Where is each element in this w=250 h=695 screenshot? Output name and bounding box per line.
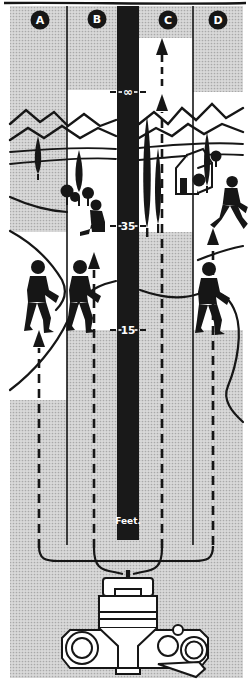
depth-of-field-diagram: ∞ 35 15 Feet. A B C D xyxy=(0,0,250,695)
gray-zone-c-near xyxy=(139,232,193,532)
lens-front xyxy=(103,578,153,596)
camera-base-tab xyxy=(116,668,140,674)
top-border-rule xyxy=(4,3,246,4)
tree-trunk xyxy=(37,174,39,180)
tree-trunk xyxy=(157,224,159,233)
tree-trunk xyxy=(215,160,217,167)
tree-trunk xyxy=(206,186,208,193)
scale-label-infinity: ∞ xyxy=(123,85,133,99)
tree-trunk xyxy=(87,198,89,206)
column-label-b: B xyxy=(93,13,101,26)
gray-zone-a-far xyxy=(10,6,67,232)
film-advance-dial-inner xyxy=(186,642,203,659)
scale-label-35: 35 xyxy=(121,220,136,232)
book-illustration-page: ∞ 35 15 Feet. A B C D xyxy=(0,0,250,695)
column-label-a: A xyxy=(36,14,45,27)
column-label-d: D xyxy=(213,14,222,27)
tree-trunk xyxy=(146,228,148,237)
gray-zone-b-near xyxy=(67,330,117,532)
house-door xyxy=(180,178,187,194)
shutter-release-button xyxy=(173,625,183,635)
tree-trunk xyxy=(78,197,80,206)
scale-label-15: 15 xyxy=(121,324,136,336)
round-tree-icon xyxy=(211,151,222,162)
rewind-knob-inner xyxy=(72,638,92,658)
column-label-c: C xyxy=(164,14,172,27)
shutter-speed-dial xyxy=(158,636,178,656)
round-tree-icon xyxy=(193,174,206,187)
round-tree-icon xyxy=(82,187,94,199)
scale-unit-label: Feet. xyxy=(115,516,141,526)
